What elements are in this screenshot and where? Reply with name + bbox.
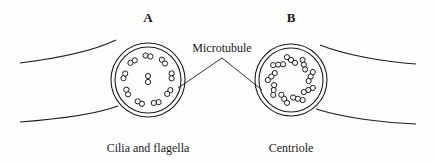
panel-a-doublet-3 [169, 71, 174, 81]
microtubule [169, 71, 174, 76]
microtubule [303, 67, 308, 72]
diagram-canvas: Microtubule A B Cilia and flagella Centr… [0, 0, 435, 163]
microtubule [143, 53, 148, 58]
central-microtubule-2 [145, 79, 150, 84]
microtubule [272, 82, 277, 87]
microtubule [290, 95, 295, 100]
diagram-background [0, 0, 435, 163]
microtubule [301, 89, 306, 94]
panel-b-triplet-7 [271, 82, 277, 97]
microtubule [306, 78, 311, 83]
microtubule [123, 71, 128, 76]
microtubule [276, 62, 281, 67]
cell-structure-diagram: Microtubule A B Cilia and flagella Centr… [0, 0, 435, 163]
panel-a-caption: Cilia and flagella [107, 141, 190, 155]
microtubule [124, 87, 129, 92]
panel-a-doublet-1 [143, 53, 153, 59]
microtubule [271, 63, 276, 68]
microtubule [169, 76, 174, 81]
microtubule [151, 100, 156, 105]
microtubule [279, 92, 284, 97]
microtubule [292, 60, 297, 65]
microtubule [280, 62, 285, 67]
microtubule [135, 99, 140, 104]
microtubule [271, 87, 276, 92]
microtubule [271, 92, 276, 97]
panel-b-key-label: B [287, 10, 296, 25]
microtubule [272, 70, 277, 75]
microtubule [165, 91, 170, 96]
panel-a-key-label: A [143, 10, 153, 25]
panel-b-triplet-9 [271, 62, 286, 68]
microtubule [156, 100, 161, 105]
microtubule-label: Microtubule [192, 41, 251, 55]
microtubule [132, 58, 137, 63]
microtubule [162, 61, 167, 66]
microtubule [148, 54, 153, 59]
central-microtubule-1 [145, 73, 150, 78]
panel-b-caption: Centriole [269, 141, 314, 155]
panel-a-doublet-5 [151, 100, 161, 106]
